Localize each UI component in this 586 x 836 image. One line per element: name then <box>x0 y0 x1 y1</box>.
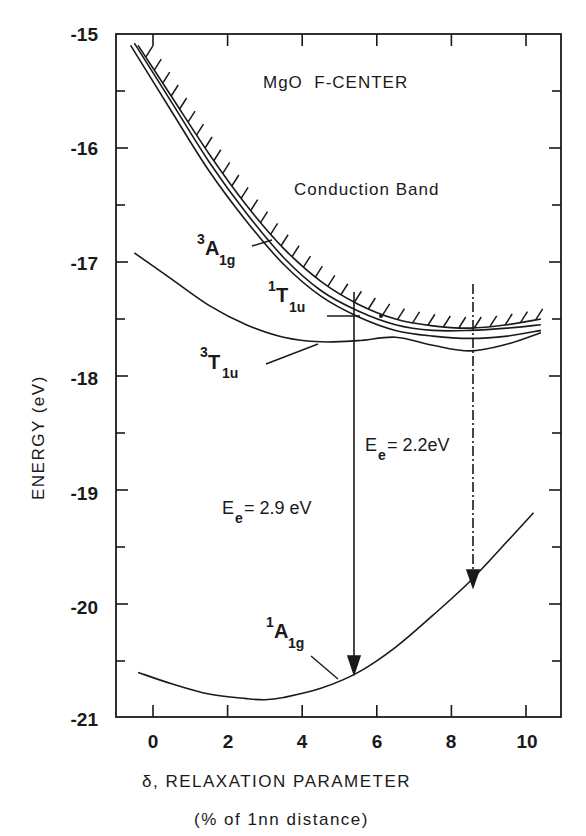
leader-line <box>266 344 318 364</box>
arrowhead-icon <box>348 656 360 674</box>
energy-symbol: E <box>222 498 234 518</box>
energy-subscript: e <box>235 510 243 526</box>
x-tick-label: 10 <box>516 731 537 752</box>
curve-3t1u <box>134 253 541 351</box>
x-tick-label: 4 <box>297 731 308 752</box>
label-sub: 1u <box>289 299 305 315</box>
x-tick-label: 8 <box>446 731 457 752</box>
transition-label-2-2ev: E e = 2.2eV <box>365 435 450 463</box>
transition-arrows <box>348 284 479 674</box>
curves <box>131 43 541 700</box>
energy-level-chart: -15 -16 -17 -18 -19 -20 -21 0 2 4 6 8 10… <box>0 0 586 836</box>
x-ticks <box>153 34 526 717</box>
energy-value: = 2.9 eV <box>244 498 312 518</box>
y-tick-label: -21 <box>71 709 99 730</box>
arrowhead-icon <box>467 570 479 587</box>
y-axis-title: ENERGY (eV) <box>29 375 48 500</box>
label-1a1g: 1 A 1g <box>266 614 338 679</box>
leader-line <box>311 656 338 679</box>
conduction-band-label: Conduction Band <box>294 180 439 199</box>
label-main: A <box>274 620 288 642</box>
y-tick-label: -16 <box>71 138 98 159</box>
y-tick-label: -17 <box>71 253 98 274</box>
x-tick-label: 2 <box>223 731 234 752</box>
y-tick-label: -18 <box>71 368 98 389</box>
curve-1a1g <box>138 513 533 700</box>
x-axis-subtitle: (% of 1nn distance) <box>194 810 369 829</box>
energy-value: = 2.2eV <box>387 435 450 455</box>
label-main: A <box>205 237 219 259</box>
y-tick-labels: -15 -16 -17 -18 -19 -20 -21 <box>71 24 99 730</box>
label-sup: 1 <box>268 278 276 294</box>
transition-label-2-9ev: E e = 2.9 eV <box>222 498 312 526</box>
label-3t1u: 3 T 1u <box>200 344 318 381</box>
x-axis-title: δ, RELAXATION PARAMETER <box>142 772 411 791</box>
y-ticks <box>116 91 561 661</box>
x-tick-labels: 0 2 4 6 8 10 <box>148 731 538 752</box>
label-sup: 3 <box>200 344 208 360</box>
y-tick-label: -20 <box>71 597 98 618</box>
x-tick-label: 6 <box>372 731 383 752</box>
label-main: T <box>208 351 220 373</box>
label-sub: 1g <box>288 635 304 651</box>
label-sup: 1 <box>266 614 274 630</box>
y-tick-label: -15 <box>71 24 99 45</box>
chart-title: MgO F-CENTER <box>263 73 408 92</box>
label-sub: 1u <box>222 365 238 381</box>
energy-symbol: E <box>365 435 377 455</box>
energy-subscript: e <box>378 447 386 463</box>
y-tick-label: -19 <box>71 483 98 504</box>
label-sup: 3 <box>197 231 205 247</box>
x-tick-label: 0 <box>148 731 159 752</box>
label-3a1g: 3 A 1g <box>197 231 272 268</box>
label-sub: 1g <box>219 252 235 268</box>
label-main: T <box>276 284 288 306</box>
plot-frame <box>116 34 561 717</box>
leader-dot <box>379 314 383 318</box>
